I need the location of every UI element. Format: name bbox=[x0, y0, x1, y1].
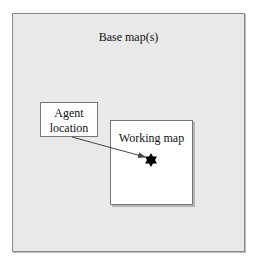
six-pointed-star-icon bbox=[145, 153, 157, 167]
diagram-overlay bbox=[0, 0, 258, 263]
pointer-arrow bbox=[72, 137, 145, 157]
